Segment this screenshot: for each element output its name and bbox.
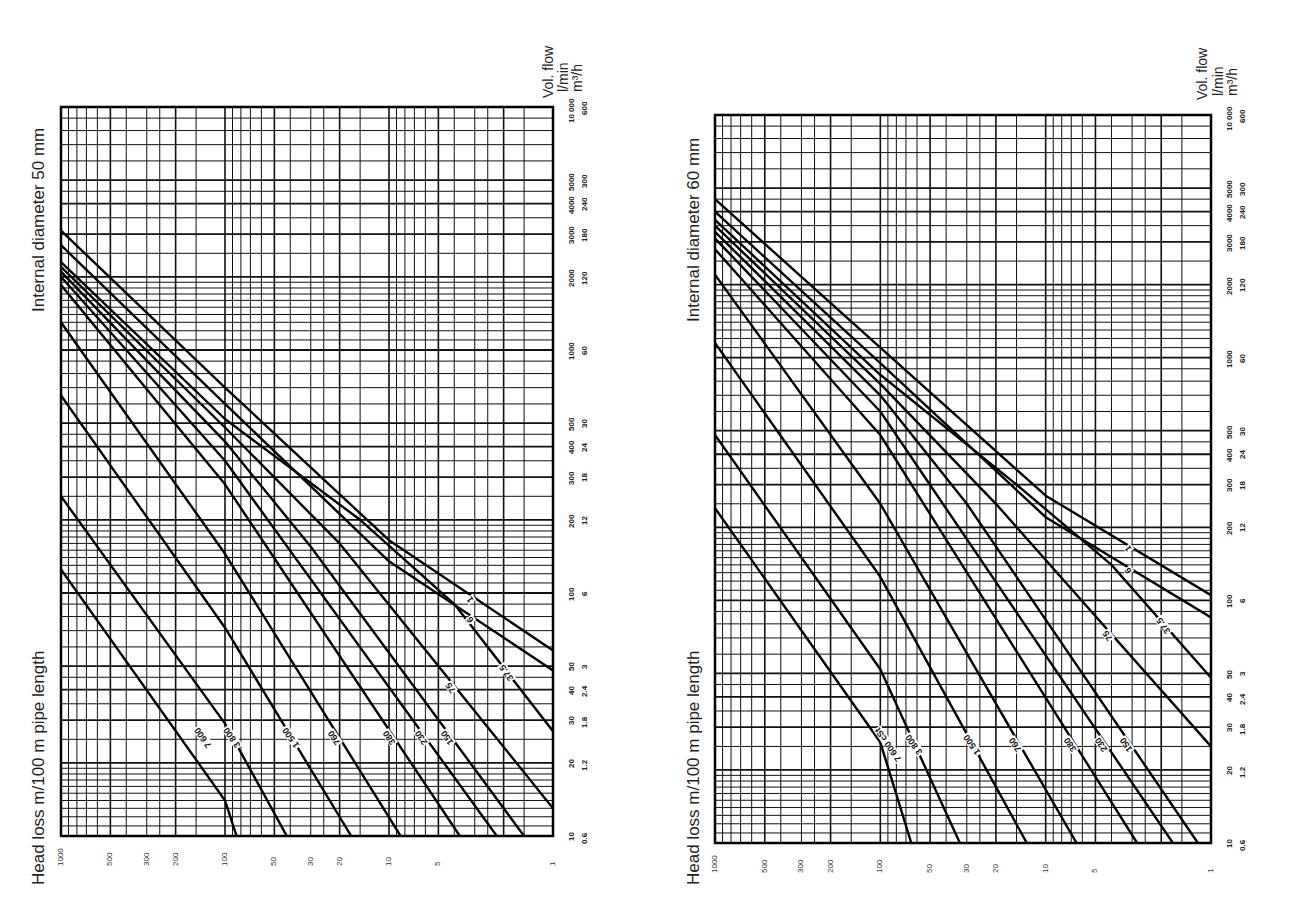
flow-tick-m3h: 2.4 xyxy=(1238,694,1247,705)
flow-tick-m3h: 6 xyxy=(1238,598,1247,602)
flow-tick-lmin: 1000 xyxy=(1225,350,1234,368)
flow-tick-m3h: 0.6 xyxy=(1238,840,1247,851)
flow-tick-lmin: 50 xyxy=(1225,670,1234,679)
flow-tick-lmin: 100 xyxy=(1225,595,1234,608)
flow-tick-m3h: 240 xyxy=(1238,206,1247,219)
flow-tick-lmin: 4000 xyxy=(1225,204,1234,222)
flow-tick-m3h: 1.8 xyxy=(1238,724,1247,735)
flow-tick-lmin: 400 xyxy=(1225,449,1234,462)
grid xyxy=(715,115,1211,843)
flow-tick-m3h: 12 xyxy=(1238,524,1247,533)
headloss-tick: 300 xyxy=(796,860,805,873)
flow-tick-lmin: 10 xyxy=(1225,839,1234,848)
headloss-tick: 200 xyxy=(826,860,835,873)
plot-area xyxy=(0,0,1290,905)
flow-tick-m3h: 60 xyxy=(1238,354,1247,363)
curve-7-600-cst xyxy=(715,508,911,843)
flow-tick-lmin: 10 000 xyxy=(1225,106,1234,130)
flow-tick-lmin: 30 xyxy=(1225,724,1234,733)
flow-tick-lmin: 20 xyxy=(1225,766,1234,775)
curve-6 xyxy=(715,212,1211,618)
flow-tick-lmin: 5000 xyxy=(1225,181,1234,199)
flow-tick-lmin: 40 xyxy=(1225,693,1234,702)
headloss-tick: 50 xyxy=(925,864,934,873)
flow-tick-m3h: 3 xyxy=(1238,672,1247,676)
flow-tick-lmin: 500 xyxy=(1225,425,1234,438)
plot-frame xyxy=(715,115,1211,843)
headloss-tick: 30 xyxy=(962,864,971,873)
headloss-tick: 1 xyxy=(1206,869,1215,873)
flow-tick-lmin: 200 xyxy=(1225,522,1234,535)
flow-tick-m3h: 120 xyxy=(1238,279,1247,292)
curve-1 xyxy=(715,199,1211,595)
flow-tick-lmin: 300 xyxy=(1225,479,1234,492)
headloss-tick: 500 xyxy=(760,860,769,873)
flow-tick-lmin: 3000 xyxy=(1225,234,1234,252)
flow-tick-m3h: 18 xyxy=(1238,481,1247,490)
headloss-tick: 100 xyxy=(875,860,884,873)
headloss-tick: 10 xyxy=(1041,864,1050,873)
flow-tick-lmin: 2000 xyxy=(1225,277,1234,295)
chart-panel-right: Internal diameter 60 mm Head loss m/100 … xyxy=(0,0,1290,905)
headloss-tick: 5 xyxy=(1090,869,1099,873)
flow-tick-m3h: 24 xyxy=(1238,451,1247,460)
flow-tick-m3h: 30 xyxy=(1238,427,1247,436)
flow-tick-m3h: 180 xyxy=(1238,236,1247,249)
flow-tick-m3h: 600 xyxy=(1238,109,1247,122)
flow-tick-m3h: 1.2 xyxy=(1238,767,1247,778)
flow-tick-m3h: 300 xyxy=(1238,182,1247,195)
headloss-tick: 20 xyxy=(991,864,1000,873)
headloss-tick: 1000 xyxy=(710,855,719,873)
